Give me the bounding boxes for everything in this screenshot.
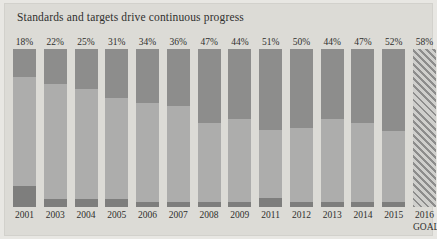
bar-rect[interactable] xyxy=(13,49,36,207)
x-axis-year-label: 2011 xyxy=(259,209,282,221)
bar-segment-bottom xyxy=(382,202,405,207)
bar-column[interactable]: 22% xyxy=(44,32,67,207)
bar-segment-top xyxy=(228,49,251,119)
x-axis-tick: 2012 xyxy=(290,209,313,233)
x-axis-year-label: 2001 xyxy=(13,209,36,221)
bar-column[interactable]: 36% xyxy=(167,32,190,207)
x-axis-tick: 2004 xyxy=(75,209,98,233)
bar-column[interactable]: 58% xyxy=(413,32,436,207)
bar-segment-top xyxy=(290,49,313,128)
bar-value-label: 44% xyxy=(231,36,248,49)
chart-figure: Standards and targets drive continuous p… xyxy=(0,0,437,239)
bar-segment-bottom xyxy=(75,199,98,207)
bar-value-label: 22% xyxy=(47,36,64,49)
bar-rect[interactable] xyxy=(136,49,159,207)
x-axis-tick: 2003 xyxy=(44,209,67,233)
x-axis-year-label: 2008 xyxy=(198,209,221,221)
bar-value-label: 36% xyxy=(170,36,187,49)
x-axis-year-label: 2005 xyxy=(105,209,128,221)
x-axis-tick: 2008 xyxy=(198,209,221,233)
x-axis-tick: 2015 xyxy=(382,209,405,233)
x-axis-year-label: 2006 xyxy=(136,209,159,221)
x-axis-tick: 2011 xyxy=(259,209,282,233)
bar-column[interactable]: 34% xyxy=(136,32,159,207)
bar-value-label: 47% xyxy=(200,36,217,49)
bar-rect[interactable] xyxy=(228,49,251,207)
bar-value-label: 58% xyxy=(416,36,433,49)
bar-rect[interactable] xyxy=(321,49,344,207)
bar-segment-bottom xyxy=(351,202,374,207)
bar-rect[interactable] xyxy=(351,49,374,207)
bar-column[interactable]: 47% xyxy=(198,32,221,207)
x-axis-year-label: 2004 xyxy=(75,209,98,221)
bar-rect[interactable] xyxy=(290,49,313,207)
bar-column[interactable]: 51% xyxy=(259,32,282,207)
bar-column[interactable]: 31% xyxy=(105,32,128,207)
bar-segment-top xyxy=(44,49,67,84)
bar-value-label: 18% xyxy=(16,36,33,49)
bar-segment-bottom xyxy=(290,202,313,207)
bar-value-label: 50% xyxy=(293,36,310,49)
bar-segment-top xyxy=(259,49,282,130)
bar-rect[interactable] xyxy=(75,49,98,207)
bar-rect[interactable] xyxy=(259,49,282,207)
bar-segment-bottom xyxy=(259,198,282,207)
x-axis-year-label: 2014 xyxy=(351,209,374,221)
bar-segment-bottom xyxy=(136,202,159,207)
x-axis-tick: 2001 xyxy=(13,209,36,233)
x-axis-tick: 2014 xyxy=(351,209,374,233)
x-axis-tick: 2016GOAL xyxy=(413,209,436,233)
x-axis-year-label: 2009 xyxy=(228,209,251,221)
bar-segment-top xyxy=(198,49,221,123)
bar-value-label: 31% xyxy=(108,36,125,49)
bar-segment-bottom xyxy=(167,202,190,207)
bar-column[interactable]: 50% xyxy=(290,32,313,207)
bar-rect[interactable] xyxy=(198,49,221,207)
bar-value-label: 25% xyxy=(77,36,94,49)
bar-segment-bottom xyxy=(13,186,36,207)
bar-value-label: 34% xyxy=(139,36,156,49)
bar-segment-top xyxy=(351,49,374,123)
x-axis-year-label: 2012 xyxy=(290,209,313,221)
bar-segment-top xyxy=(75,49,98,89)
bar-segment-top xyxy=(136,49,159,103)
bar-column[interactable]: 44% xyxy=(321,32,344,207)
bar-goal-hatched[interactable] xyxy=(413,49,436,207)
chart-plot-frame: Standards and targets drive continuous p… xyxy=(4,3,433,236)
x-axis-year-label: 2016 xyxy=(413,209,436,221)
x-axis-tick: 2009 xyxy=(228,209,251,233)
bar-series-container: 18%22%25%31%34%36%47%44%51%50%44%47%52%5… xyxy=(13,32,436,207)
x-axis-year-label: 2007 xyxy=(167,209,190,221)
x-axis-labels: 2001200320042005200620072008200920112012… xyxy=(13,209,436,233)
bar-column[interactable]: 44% xyxy=(228,32,251,207)
x-axis-tick: 2007 xyxy=(167,209,190,233)
bar-value-label: 47% xyxy=(354,36,371,49)
x-axis-tick: 2005 xyxy=(105,209,128,233)
bar-column[interactable]: 47% xyxy=(351,32,374,207)
x-axis-tick: 2013 xyxy=(321,209,344,233)
x-axis-goal-annotation: GOAL xyxy=(413,221,436,233)
chart-title: Standards and targets drive continuous p… xyxy=(17,11,244,23)
bar-column[interactable]: 18% xyxy=(13,32,36,207)
bar-value-label: 52% xyxy=(385,36,402,49)
bar-segment-bottom xyxy=(105,199,128,207)
x-axis-year-label: 2003 xyxy=(44,209,67,221)
x-axis-tick: 2006 xyxy=(136,209,159,233)
bar-segment-top xyxy=(321,49,344,119)
bar-segment-bottom xyxy=(198,202,221,207)
bar-segment-top xyxy=(105,49,128,98)
bar-rect[interactable] xyxy=(382,49,405,207)
bar-rect[interactable] xyxy=(167,49,190,207)
bar-segment-top xyxy=(382,49,405,131)
bar-value-label: 51% xyxy=(262,36,279,49)
bar-rect[interactable] xyxy=(44,49,67,207)
bar-segment-top xyxy=(167,49,190,106)
bar-segment-bottom xyxy=(228,202,251,207)
bar-segment-bottom xyxy=(44,199,67,207)
bar-column[interactable]: 52% xyxy=(382,32,405,207)
bar-segment-top xyxy=(13,49,36,77)
bar-segment-bottom xyxy=(321,202,344,207)
bar-value-label: 44% xyxy=(323,36,340,49)
bar-column[interactable]: 25% xyxy=(75,32,98,207)
bar-rect[interactable] xyxy=(105,49,128,207)
